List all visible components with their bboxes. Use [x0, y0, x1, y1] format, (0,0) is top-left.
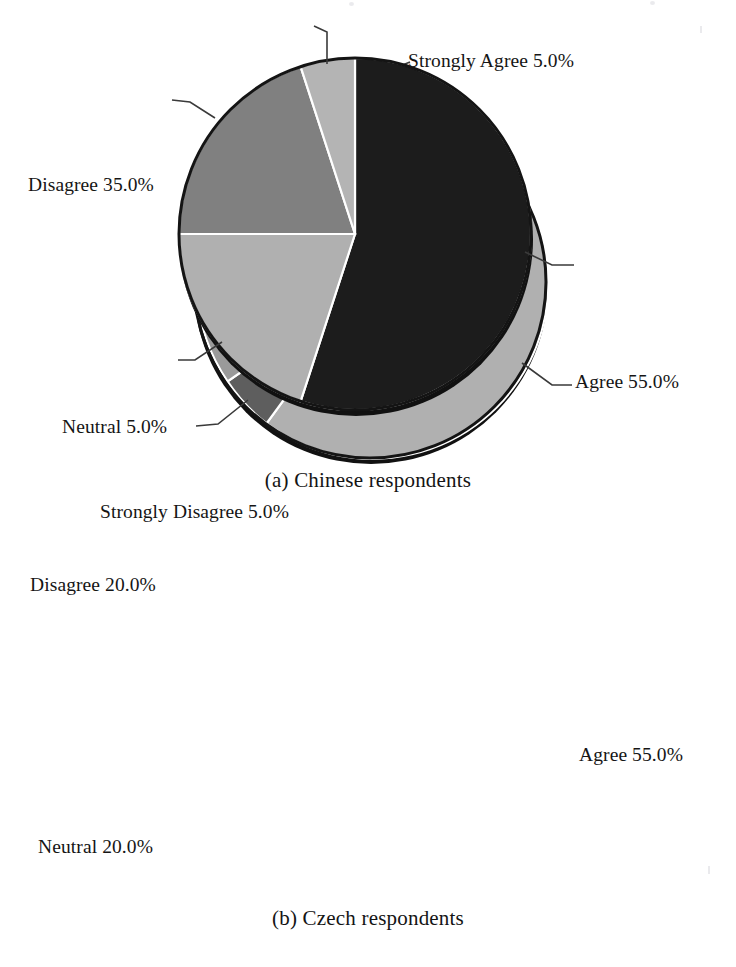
- scan-speck-lower-right: [708, 866, 710, 874]
- pie-b-caption: (b) Czech respondents: [0, 906, 736, 931]
- scan-speck-upper-right: [700, 26, 702, 33]
- pie-b-leader-strongly-disagree: [314, 26, 327, 64]
- scan-speck-top-left: [349, 2, 354, 6]
- pie-chart-panel-b: Strongly Disagree 5.0% Disagree 20.0% Ne…: [0, 490, 736, 967]
- scan-speck-top-right: [650, 1, 655, 5]
- pie-b-label-neutral: Neutral 20.0%: [38, 836, 153, 857]
- pie-b-leader-disagree: [172, 100, 215, 118]
- pie-chart-b-graphic: [0, 0, 736, 477]
- figure-root: Strongly Agree 5.0% Disagree 35.0% Neutr…: [0, 0, 736, 967]
- pie-b-label-strongly-disagree: Strongly Disagree 5.0%: [100, 501, 289, 522]
- pie-b-label-agree: Agree 55.0%: [579, 744, 683, 765]
- pie-b-label-disagree: Disagree 20.0%: [30, 574, 156, 595]
